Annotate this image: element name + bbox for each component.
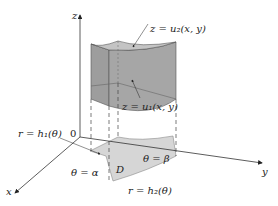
lower-surface-label: z = u₁(x, y) [121,101,178,112]
x-axis [15,137,80,193]
angle-alpha-label: θ = α [71,167,99,178]
angle-beta-label: θ = β [143,153,170,164]
y-axis-label: y [261,166,268,177]
upper-surface-label: z = u₂(x, y) [149,23,206,34]
outer-curve-label: r = h₂(θ) [128,185,172,196]
inner-curve-label: r = h₁(θ) [18,128,62,139]
diagram-svg: z x y 0 z = u₂(x, y) z = u₁(x, y) r = h₁… [0,0,278,206]
diagram-canvas: z x y 0 z = u₂(x, y) z = u₁(x, y) r = h₁… [0,0,278,206]
solid-side-left [91,44,109,106]
z-axis-label: z [71,10,78,21]
x-axis-label: x [6,186,12,197]
origin-label: 0 [70,128,76,139]
region-d-label: D [115,164,124,175]
